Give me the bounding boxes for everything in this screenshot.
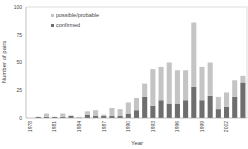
bar-possible-probable-1988 [109,108,114,116]
legend-label-confirmed: confirmed [56,22,80,28]
bar-possible-probable-2001 [216,97,221,109]
y-tick-label: 25 [16,87,22,93]
bar-possible-probable-1997 [183,70,188,100]
x-tick-label: 1981 [51,121,57,132]
bar-possible-probable-1994 [159,67,164,100]
x-tick-label: 1996 [174,121,180,132]
bar-confirmed-1995 [167,104,172,118]
y-axis-title: Number of pairs [1,41,7,84]
x-tick-label: 2002 [223,121,229,132]
bar-possible-probable-1986 [93,110,98,116]
bar-possible-probable-2000 [208,63,213,96]
bar-possible-probable-1999 [199,67,204,100]
x-tick-label: 1984 [76,121,82,132]
bar-possible-probable-1991 [134,98,139,110]
bar-confirmed-1992 [142,97,147,118]
bar-confirmed-1987 [101,116,106,118]
bar-confirmed-2003 [232,97,237,118]
bar-possible-probable-1987 [101,115,106,116]
bar-possible-probable-1985 [85,111,90,114]
bar-confirmed-1991 [134,110,139,118]
bar-confirmed-1993 [150,106,155,118]
bar-confirmed-1983 [68,116,73,118]
bar-confirmed-1997 [183,100,188,118]
x-tick-label: 1999 [199,121,205,132]
x-tick-label: 1987 [101,121,107,132]
bar-possible-probable-1982 [60,114,65,117]
bars [36,23,246,118]
x-axis-ticks: 197819811984198719901993199619992002 [27,121,229,132]
y-axis-ticks: 0255075100 [14,4,23,121]
bar-possible-probable-1996 [175,70,180,103]
bar-possible-probable-2004 [240,76,245,83]
x-tick-label: 1978 [27,121,33,132]
bar-confirmed-1998 [191,87,196,118]
legend-label-possible: possible/probable [56,12,99,18]
legend-swatch-confirmed [51,24,54,27]
x-axis-title: Year [131,140,143,146]
bar-possible-probable-1980 [44,114,49,117]
bar-confirmed-2004 [240,82,245,118]
bar-confirmed-2001 [216,109,221,118]
x-tick-label: 1990 [125,121,131,132]
bar-confirmed-1990 [126,114,131,118]
bar-confirmed-1988 [109,116,114,118]
bar-confirmed-2002 [224,107,229,118]
bar-possible-probable-1995 [167,63,172,104]
y-tick-label: 75 [16,32,22,38]
bar-possible-probable-1998 [191,23,196,87]
bar-confirmed-2000 [208,96,213,118]
bar-possible-probable-2003 [232,80,237,97]
stacked-bar-chart: 0255075100 19781981198419871990199319961… [0,0,248,149]
bar-confirmed-1996 [175,104,180,118]
bar-confirmed-1986 [93,116,98,118]
bar-confirmed-1989 [118,116,123,118]
bar-confirmed-1999 [199,100,204,118]
bar-confirmed-1994 [159,100,164,118]
bar-possible-probable-1992 [142,84,147,97]
y-tick-label: 50 [16,59,22,65]
bar-possible-probable-1993 [150,69,155,106]
y-tick-label: 0 [19,115,22,121]
bar-confirmed-1985 [85,115,90,118]
bar-possible-probable-1989 [118,109,123,116]
legend-swatch-possible [51,14,54,17]
bar-possible-probable-2002 [224,92,229,106]
bar-possible-probable-1990 [126,102,131,113]
legend: possible/probable confirmed [51,12,99,28]
y-tick-label: 100 [14,4,23,10]
x-tick-label: 1993 [150,121,156,132]
